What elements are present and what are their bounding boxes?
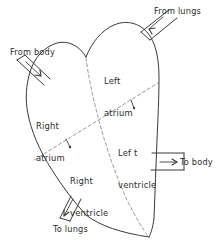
label-from-body: From body	[10, 47, 55, 58]
av-tick-left-icon	[66, 139, 70, 147]
label-right-atrium: Right atrium	[36, 100, 65, 184]
label-right-ventricle-line2: ventricle	[70, 208, 108, 219]
heart-diagram: Right atrium Left atrium Right ventricle…	[0, 0, 220, 247]
label-to-body: To body	[180, 157, 213, 168]
av-tick-right-dot-icon	[133, 107, 135, 109]
label-to-lungs: To lungs	[53, 224, 88, 235]
label-left-ventricle-line2: ventricle	[118, 180, 156, 191]
vessel-from-lungs-cap	[141, 32, 150, 40]
label-left-ventricle: Lef t ventricle	[118, 127, 156, 211]
label-right-atrium-line1: Right	[36, 121, 65, 132]
label-left-ventricle-line1: Lef t	[118, 148, 156, 159]
label-from-lungs: From lungs	[154, 6, 201, 17]
label-left-atrium-line1: Left	[104, 76, 133, 87]
label-right-ventricle-line1: Right	[70, 176, 108, 187]
arrow-to-body-icon	[160, 159, 177, 165]
label-right-atrium-line2: atrium	[36, 153, 65, 164]
av-tick-left-dot-icon	[69, 146, 71, 148]
vessel-from-body	[17, 55, 50, 85]
label-left-atrium-line2: atrium	[104, 108, 133, 119]
vessel-to-lungs-cap	[60, 218, 70, 221]
